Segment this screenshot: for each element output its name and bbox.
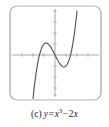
figure-caption: (c) y=x3−2x <box>0 108 109 120</box>
caption-label: (c) <box>31 109 42 119</box>
plot-border <box>10 6 101 100</box>
caption-variable: x <box>74 109 78 119</box>
figure-panel: (c) y=x3−2x <box>0 0 109 127</box>
graph-frame <box>9 5 102 101</box>
